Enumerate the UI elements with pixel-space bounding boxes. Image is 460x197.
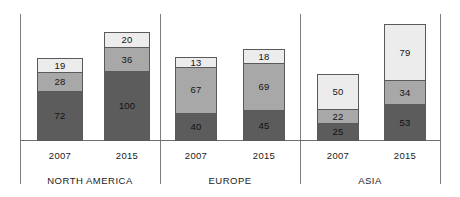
segment-value-label: 67 <box>191 85 202 95</box>
bar-segment-light: 19 <box>38 59 82 72</box>
tick-label-europe-2007: 2007 <box>166 150 226 161</box>
bar-europe-2007: 13 67 40 <box>175 57 217 141</box>
group-label-north-america: NORTH AMERICA <box>20 175 160 186</box>
segment-value-label: 18 <box>259 52 270 62</box>
tick-label-europe-2015: 2015 <box>234 150 294 161</box>
plot-area: 19 28 72 20 36 100 13 <box>0 0 460 141</box>
bar-segment-light: 18 <box>244 50 284 63</box>
bar-segment-dark: 72 <box>38 91 82 140</box>
bar-segment-dark: 45 <box>244 110 284 140</box>
group-label-asia: ASIA <box>300 175 440 186</box>
segment-value-label: 100 <box>119 101 135 111</box>
bar-segment-medium: 22 <box>318 109 358 124</box>
bar-segment-dark: 53 <box>385 104 425 140</box>
bar-north-america-2007: 19 28 72 <box>37 58 83 141</box>
segment-value-label: 45 <box>259 121 270 131</box>
bar-segment-light: 20 <box>105 33 149 47</box>
tick-label-asia-2007: 2007 <box>308 150 368 161</box>
segment-value-label: 53 <box>400 118 411 128</box>
segment-value-label: 25 <box>333 127 344 137</box>
bar-segment-light: 79 <box>385 25 425 80</box>
stacked-bar-chart: 19 28 72 20 36 100 13 <box>0 0 460 197</box>
segment-value-label: 34 <box>400 88 411 98</box>
segment-value-label: 20 <box>122 35 133 45</box>
bar-europe-2015: 18 69 45 <box>243 49 285 141</box>
bar-segment-dark: 100 <box>105 71 149 140</box>
segment-value-label: 69 <box>259 82 270 92</box>
bar-segment-dark: 25 <box>318 123 358 140</box>
segment-value-label: 50 <box>333 87 344 97</box>
bar-segment-medium: 28 <box>38 72 82 92</box>
segment-value-label: 72 <box>55 111 66 121</box>
bar-segment-medium: 34 <box>385 80 425 104</box>
segment-value-label: 40 <box>191 122 202 132</box>
segment-value-label: 36 <box>122 55 133 65</box>
segment-value-label: 13 <box>191 58 202 67</box>
bar-segment-medium: 69 <box>244 63 284 110</box>
bar-segment-light: 13 <box>176 58 216 67</box>
bar-segment-medium: 36 <box>105 47 149 72</box>
bar-segment-dark: 40 <box>176 113 216 140</box>
group-label-europe: EUROPE <box>160 175 300 186</box>
tick-label-asia-2015: 2015 <box>375 150 435 161</box>
bar-segment-light: 50 <box>318 75 358 109</box>
bar-asia-2015: 79 34 53 <box>384 24 426 141</box>
segment-value-label: 79 <box>400 48 411 58</box>
segment-value-label: 22 <box>333 112 344 122</box>
segment-value-label: 19 <box>55 61 66 71</box>
tick-label-north-america-2007: 2007 <box>30 150 90 161</box>
bar-asia-2007: 50 22 25 <box>317 74 359 141</box>
tick-label-north-america-2015: 2015 <box>97 150 157 161</box>
bar-north-america-2015: 20 36 100 <box>104 32 150 141</box>
bar-segment-medium: 67 <box>176 67 216 113</box>
segment-value-label: 28 <box>55 77 66 87</box>
